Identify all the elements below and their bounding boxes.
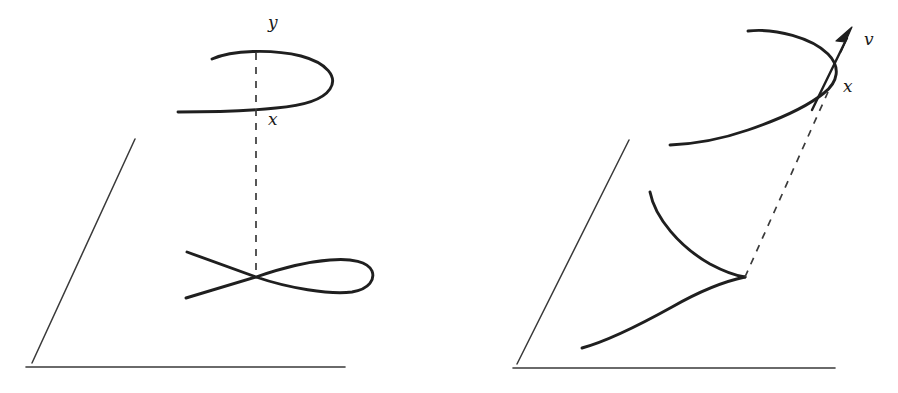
right-panel-label-x: x bbox=[843, 76, 853, 96]
cusp-lower-branch bbox=[582, 277, 745, 348]
right-panel: v x bbox=[513, 27, 874, 368]
plane-left-edge bbox=[32, 139, 135, 363]
left-panel-label-x: x bbox=[268, 109, 278, 129]
nodal-cubic-loop bbox=[186, 252, 373, 298]
tangent-arrowhead-icon bbox=[836, 27, 852, 52]
spiral-lift-curve bbox=[670, 30, 836, 145]
cusp-upper-branch bbox=[650, 192, 745, 277]
figure-root: y x bbox=[0, 0, 898, 393]
left-panel-label-y: y bbox=[267, 12, 278, 32]
figure-svg: y x bbox=[0, 0, 898, 393]
left-panel-base-plane bbox=[26, 139, 345, 367]
right-panel-cuspidal-cubic bbox=[582, 192, 745, 348]
plane-left-edge bbox=[517, 140, 629, 364]
right-panel-tangent-arrow bbox=[812, 27, 852, 110]
right-panel-label-v: v bbox=[864, 29, 874, 49]
right-panel-spiral-lift bbox=[670, 30, 836, 145]
right-panel-projection-dashed-line bbox=[745, 92, 828, 277]
right-panel-base-plane bbox=[513, 140, 835, 368]
left-panel-nodal-cubic bbox=[186, 252, 373, 298]
left-panel: y x bbox=[26, 12, 373, 367]
